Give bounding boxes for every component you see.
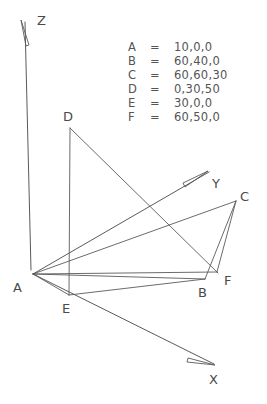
point-label-a: A: [13, 280, 22, 295]
legend-row: C = 60,60,30: [128, 68, 228, 82]
legend-name: E: [128, 96, 136, 110]
axis-x: [33, 274, 215, 365]
point-label-e: E: [62, 301, 71, 316]
legend-equals: =: [150, 68, 160, 82]
point-label-c: C: [240, 189, 250, 204]
coordinate-legend: A = 10,0,0 B = 60,40,0 C = 60,60,30 D = …: [128, 40, 228, 124]
legend-row: B = 60,40,0: [128, 54, 220, 68]
legend-coords: 60,40,0: [174, 54, 220, 68]
legend-row: E = 30,0,0: [128, 96, 212, 110]
legend-equals: =: [150, 40, 160, 54]
legend-coords: 30,0,0: [174, 96, 212, 110]
legend-coords: 60,60,30: [174, 68, 228, 82]
diagram-canvas: Z Y X A B C D E F A = 10,0,0 B = 60,40,0…: [0, 0, 267, 404]
legend-name: D: [128, 82, 137, 96]
axis-label-z: Z: [37, 13, 46, 28]
legend-row: A = 10,0,0: [128, 40, 212, 54]
legend-name: C: [128, 68, 136, 82]
legend-name: B: [128, 54, 136, 68]
legend-equals: =: [150, 54, 160, 68]
legend-coords: 10,0,0: [174, 40, 212, 54]
axis-y: [33, 171, 209, 274]
legend-equals: =: [150, 110, 160, 124]
legend-coords: 60,50,0: [174, 110, 220, 124]
axis-label-x: X: [209, 372, 218, 387]
legend-name: F: [128, 110, 135, 124]
legend-name: A: [128, 40, 136, 54]
axis-label-y: Y: [211, 176, 220, 191]
legend-row: F = 60,50,0: [128, 110, 220, 124]
point-label-f: F: [224, 273, 232, 288]
legend-row: D = 0,30,50: [128, 82, 220, 96]
point-label-b: B: [198, 285, 207, 300]
legend-coords: 0,30,50: [174, 82, 220, 96]
point-label-d: D: [63, 109, 74, 124]
axis-z: [21, 20, 31, 270]
figure-edges: [33, 128, 236, 295]
legend-equals: =: [150, 96, 160, 110]
legend-equals: =: [150, 82, 160, 96]
